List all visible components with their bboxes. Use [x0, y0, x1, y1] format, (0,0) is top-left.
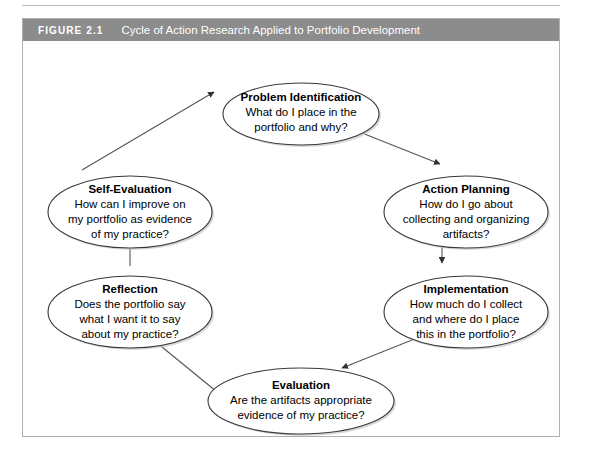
node-title: Evaluation: [272, 379, 330, 391]
node-line-3: about my practice?: [81, 328, 178, 340]
node-title: Reflection: [102, 283, 158, 295]
node-title: Self-Evaluation: [88, 183, 171, 195]
node-self-evaluation[interactable]: Self-Evaluation How can I improve on my …: [48, 176, 212, 248]
node-title: Action Planning: [422, 183, 510, 195]
cycle-diagram: Problem Identification What do I place i…: [22, 18, 560, 437]
node-line-1: How can I improve on: [74, 198, 185, 210]
node-line-2: and where do I place: [413, 313, 520, 325]
node-implementation[interactable]: Implementation How much do I collect and…: [384, 276, 548, 348]
edge-implementation-to-evaluation: [342, 336, 422, 368]
node-line-1: How much do I collect: [410, 298, 523, 310]
node-line-1: Are the artifacts appropriate: [230, 394, 372, 406]
node-action-planning[interactable]: Action Planning How do I go about collec…: [384, 176, 548, 248]
edge-problem-to-action: [357, 131, 440, 164]
edge-self-evaluation-to-problem: [82, 92, 214, 170]
node-title: Problem Identification: [241, 91, 362, 103]
node-line-2: collecting and organizing: [403, 213, 530, 225]
node-line-3: this in the portfolio?: [416, 328, 516, 340]
node-line-3: of my practice?: [91, 228, 169, 240]
node-problem-identification[interactable]: Problem Identification What do I place i…: [223, 83, 379, 145]
node-line-1: Does the portfolio say: [74, 298, 185, 310]
node-line-1: What do I place in the: [245, 106, 356, 118]
node-line-1: How do I go about: [419, 198, 513, 210]
node-line-2: portfolio and why?: [254, 121, 347, 133]
node-line-2: evidence of my practice?: [237, 409, 364, 421]
top-divider-rule: [22, 5, 560, 6]
node-title: Implementation: [424, 283, 509, 295]
node-evaluation[interactable]: Evaluation Are the artifacts appropriate…: [208, 368, 394, 434]
node-line-2: my portfolio as evidence: [68, 213, 192, 225]
node-line-3: artifacts?: [443, 228, 490, 240]
node-reflection[interactable]: Reflection Does the portfolio say what I…: [48, 276, 212, 348]
node-line-2: what I want it to say: [79, 313, 181, 325]
